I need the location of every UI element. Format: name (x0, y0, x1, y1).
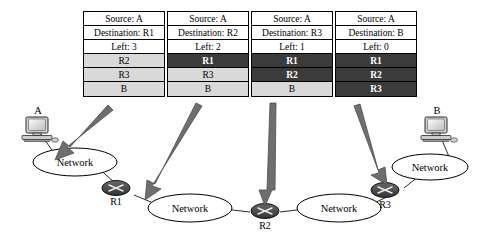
arrow-packet-4 (354, 104, 387, 185)
arrow-packet-2 (145, 103, 202, 200)
network-1: Network (33, 148, 117, 176)
arrow-packet-4-shape (354, 104, 387, 185)
router-r1: R1 (102, 181, 130, 208)
router-r2-label: R2 (259, 220, 271, 231)
network-3: Network (297, 194, 381, 222)
computer-icon-b (421, 117, 458, 142)
network-2-label: Network (172, 203, 209, 214)
host-b: B (421, 105, 458, 142)
network-1-label: Network (57, 157, 94, 168)
arrow-packet-3 (259, 103, 276, 206)
computer-icon-a (22, 117, 59, 142)
network-4-label: Network (412, 162, 449, 173)
host-a-label: A (34, 105, 42, 116)
host-b-label: B (433, 105, 440, 116)
router-r2: R2 (251, 204, 279, 232)
arrow-packet-2-shape (145, 103, 202, 200)
arrow-packet-3-shape (259, 103, 276, 206)
router-r1-label: R1 (110, 196, 122, 207)
network-2: Network (148, 194, 232, 222)
host-a: A (22, 105, 59, 142)
figure-canvas: Source: A Destination: R1 Left: 3 R2 R3 … (0, 0, 479, 242)
network-topology-diagram: Network Network Network Network R1 (0, 0, 479, 242)
network-3-label: Network (321, 203, 358, 214)
router-r3-label: R3 (379, 199, 391, 210)
network-4: Network (392, 154, 468, 180)
